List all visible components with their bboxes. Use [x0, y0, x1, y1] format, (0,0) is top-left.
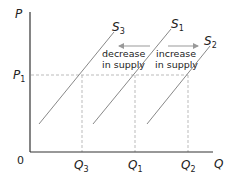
x-axis-label: Q — [214, 157, 223, 171]
guide-lines — [31, 75, 188, 152]
y-axis-label: P — [15, 7, 23, 21]
s2-label: S2 — [204, 34, 217, 50]
supply-shift-diagram: P Q 0 P1 Q3 Q1 Q2 S3 S1 S2 decrease in s… — [0, 0, 236, 185]
p1-label: P1 — [13, 68, 25, 84]
s3-label: S3 — [112, 20, 125, 36]
q3-label: Q3 — [74, 158, 89, 174]
increase-label-line2: in supply — [155, 59, 198, 70]
decrease-label-line2: in supply — [102, 59, 145, 70]
q1-label: Q1 — [128, 158, 143, 174]
origin-label: 0 — [17, 154, 24, 167]
q2-label: Q2 — [181, 158, 196, 174]
supply-curve-s3 — [39, 32, 114, 124]
s1-label: S1 — [171, 17, 184, 33]
decrease-label-line1: decrease — [102, 48, 145, 59]
increase-label-line1: increase — [156, 48, 196, 59]
